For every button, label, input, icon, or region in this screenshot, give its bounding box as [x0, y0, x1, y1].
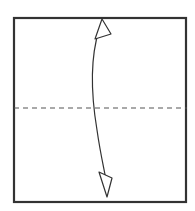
- diagram-canvas: [0, 0, 195, 211]
- origami-fold-diagram: Origami step: valley fold square in half…: [0, 0, 195, 211]
